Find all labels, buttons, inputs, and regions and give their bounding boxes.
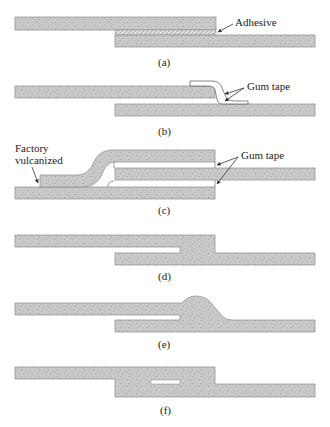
caption-b: (b) bbox=[158, 125, 171, 138]
belt-joint-bump bbox=[15, 296, 315, 332]
gum-tape-label: Gum tape bbox=[247, 80, 290, 92]
gum-tape-leader-arrow bbox=[225, 88, 244, 94]
caption-a: (a) bbox=[158, 56, 171, 69]
caption-e: (e) bbox=[158, 338, 171, 351]
panel-b: Gum tape (b) bbox=[15, 80, 315, 138]
factory-vulcanized-leader-arrow bbox=[32, 167, 38, 183]
belt-lower bbox=[115, 104, 315, 116]
caption-f: (f) bbox=[160, 404, 171, 417]
gum-tape-gap-upper bbox=[114, 162, 215, 168]
panel-a: Adhesive (a) bbox=[15, 16, 315, 69]
belt-middle bbox=[115, 168, 315, 180]
belt-upper bbox=[15, 17, 216, 30]
panel-d: (d) bbox=[15, 235, 315, 283]
factory-vulcanized-label-line2: vulcanized bbox=[15, 154, 63, 166]
adhesive-layer bbox=[115, 30, 216, 35]
panel-c: Gum tape Factory vulcanized (c) bbox=[15, 142, 315, 217]
gum-tape-label: Gum tape bbox=[241, 149, 284, 161]
belt-upper bbox=[15, 86, 215, 98]
adhesive-label: Adhesive bbox=[235, 16, 277, 28]
adhesive-leader-arrow bbox=[218, 24, 233, 32]
gum-tape-gap-lower bbox=[108, 180, 215, 187]
panel-e: (e) bbox=[15, 296, 315, 351]
caption-c: (c) bbox=[158, 204, 171, 217]
caption-d: (d) bbox=[158, 270, 171, 283]
splice-diagram: Adhesive (a) Gum tape (b) Gum tape Facto… bbox=[0, 0, 330, 427]
belt-joint bbox=[15, 235, 315, 265]
panel-f: (f) bbox=[15, 367, 315, 417]
belt-lower bbox=[115, 35, 315, 47]
belt-bottom bbox=[15, 187, 215, 199]
joint-void bbox=[151, 380, 180, 384]
gum-tape-leader-arrow bbox=[225, 88, 244, 101]
factory-vulcanized-label-line1: Factory bbox=[15, 142, 49, 154]
